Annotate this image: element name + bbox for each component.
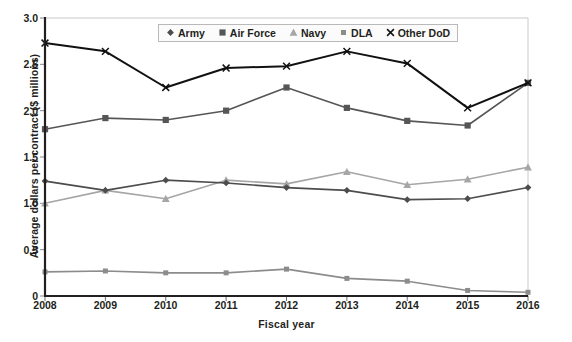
square-marker-icon xyxy=(218,28,227,37)
data-point-square xyxy=(283,84,289,90)
series-air-force xyxy=(42,80,531,133)
data-point-small-square xyxy=(341,30,346,35)
data-point-square xyxy=(163,117,169,123)
data-point-small-square xyxy=(405,279,410,284)
data-point-square xyxy=(465,122,471,128)
data-point-diamond xyxy=(464,195,471,202)
small-square-marker-icon xyxy=(339,28,348,37)
data-point-square xyxy=(404,118,410,124)
data-point-diamond xyxy=(525,184,532,191)
data-point-small-square xyxy=(526,290,531,295)
data-point-triangle xyxy=(524,163,532,170)
legend-item-other-dod[interactable]: Other DoD xyxy=(386,27,451,38)
data-point-x xyxy=(387,29,394,36)
data-point-diamond xyxy=(343,187,350,194)
legend-item-air-force[interactable]: Air Force xyxy=(218,27,276,38)
legend-label: Navy xyxy=(301,28,326,39)
line-chart: Average dollars per contract ($ millions… xyxy=(0,0,572,342)
legend-item-dla[interactable]: DLA xyxy=(339,27,373,38)
series-line xyxy=(45,269,528,292)
data-point-small-square xyxy=(163,270,168,275)
data-point-diamond xyxy=(404,196,411,203)
legend-label: DLA xyxy=(351,28,373,39)
plot-area xyxy=(0,0,572,342)
data-point-small-square xyxy=(344,276,349,281)
data-point-square xyxy=(102,115,108,121)
x-marker-icon xyxy=(386,28,395,37)
data-point-triangle xyxy=(343,168,351,175)
triangle-marker-icon xyxy=(289,28,298,37)
data-point-small-square xyxy=(224,270,229,275)
legend-item-navy[interactable]: Navy xyxy=(289,27,326,38)
data-point-small-square xyxy=(284,267,289,272)
data-point-square xyxy=(223,108,229,114)
legend-label: Army xyxy=(178,28,205,39)
series-line xyxy=(45,43,528,108)
data-point-square xyxy=(344,105,350,111)
chart-legend: ArmyAir ForceNavyDLAOther DoD xyxy=(158,24,458,42)
data-point-small-square xyxy=(465,288,470,293)
series-dla xyxy=(43,267,531,295)
diamond-marker-icon xyxy=(166,28,175,37)
data-point-triangle xyxy=(290,28,298,35)
series-other-dod xyxy=(42,40,532,112)
data-point-small-square xyxy=(103,268,108,273)
data-point-square xyxy=(219,29,225,35)
legend-label: Other DoD xyxy=(398,28,451,39)
data-point-diamond xyxy=(162,177,169,184)
legend-item-army[interactable]: Army xyxy=(166,27,205,38)
data-point-diamond xyxy=(167,29,174,36)
legend-label: Air Force xyxy=(230,28,276,39)
